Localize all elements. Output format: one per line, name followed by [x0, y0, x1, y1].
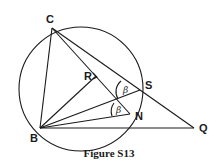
angle-arc-S	[116, 81, 121, 99]
label-B: B	[30, 132, 38, 144]
angle-label-beta-S: β	[122, 85, 128, 95]
angle-label-beta-N: β	[115, 105, 121, 115]
label-C: C	[46, 13, 54, 25]
angle-arc-N	[111, 103, 114, 116]
figure-caption: Figure S13	[84, 147, 135, 159]
geometry-figure: C B Q S N R β β Figure S13	[0, 0, 218, 162]
label-Q: Q	[199, 122, 208, 134]
label-S: S	[145, 79, 152, 91]
label-N: N	[135, 110, 143, 122]
label-R: R	[84, 70, 92, 82]
segment-CB	[40, 28, 52, 128]
